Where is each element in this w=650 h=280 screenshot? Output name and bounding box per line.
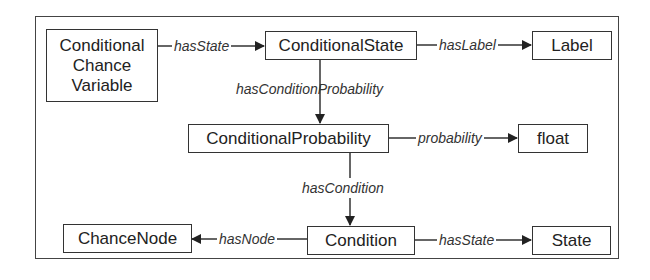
edge-label-has-state-2: hasState	[437, 232, 496, 248]
node-conditional-state: ConditionalState	[265, 31, 417, 60]
node-label-line: Conditional	[59, 36, 144, 56]
edge-label-probability: probability	[416, 130, 484, 146]
node-label: Condition	[325, 231, 397, 251]
edge-label-has-state-1: hasState	[172, 38, 231, 54]
node-label-line: Chance	[73, 56, 132, 76]
edge-label-has-node: hasNode	[217, 231, 277, 247]
edge-label-has-label: hasLabel	[437, 37, 498, 53]
node-label: ChanceNode	[78, 229, 177, 249]
node-float: float	[518, 124, 588, 153]
node-state: State	[532, 226, 611, 255]
node-label: Label	[532, 31, 612, 60]
node-chance-node: ChanceNode	[63, 224, 192, 253]
node-label: ConditionalProbability	[206, 129, 370, 149]
edge-label-has-condition: hasCondition	[300, 178, 386, 198]
node-label: float	[537, 129, 569, 149]
node-label-line: Variable	[71, 76, 132, 96]
edge-label-has-condition-probability: hasConditionProbability	[236, 81, 383, 97]
node-label: State	[552, 231, 592, 251]
node-label: ConditionalState	[279, 36, 404, 56]
node-label: Label	[551, 36, 593, 56]
node-condition: Condition	[307, 226, 415, 255]
node-conditional-chance-variable: Conditional Chance Variable	[46, 29, 158, 102]
node-conditional-probability: ConditionalProbability	[188, 124, 389, 153]
